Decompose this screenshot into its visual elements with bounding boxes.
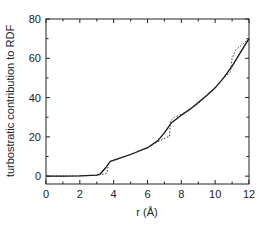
y-tick-label: 40 bbox=[29, 92, 41, 104]
y-axis-title: turbostratic contribution to RDF bbox=[4, 25, 16, 178]
x-tick-label: 10 bbox=[209, 188, 221, 200]
x-axis-title: r (Å) bbox=[136, 206, 157, 218]
x-tick-label: 0 bbox=[43, 188, 49, 200]
x-tick-label: 8 bbox=[178, 188, 184, 200]
axis-ticks bbox=[46, 19, 249, 184]
x-tick-label: 12 bbox=[243, 188, 255, 200]
data-series bbox=[46, 39, 249, 177]
y-tick-label: 20 bbox=[29, 131, 41, 143]
solid-line bbox=[46, 39, 249, 177]
y-tick-label: 80 bbox=[29, 13, 41, 25]
x-tick-labels: 024681012 bbox=[43, 188, 255, 200]
y-tick-labels: 020406080 bbox=[29, 13, 41, 182]
rdf-chart: 024681012 020406080 r (Å) turbostratic c… bbox=[0, 0, 268, 227]
plot-frame bbox=[46, 19, 249, 184]
y-tick-label: 0 bbox=[35, 170, 41, 182]
y-tick-label: 60 bbox=[29, 52, 41, 64]
x-tick-label: 4 bbox=[111, 188, 117, 200]
x-tick-label: 2 bbox=[77, 188, 83, 200]
dotted-line bbox=[46, 39, 249, 177]
x-tick-label: 6 bbox=[144, 188, 150, 200]
